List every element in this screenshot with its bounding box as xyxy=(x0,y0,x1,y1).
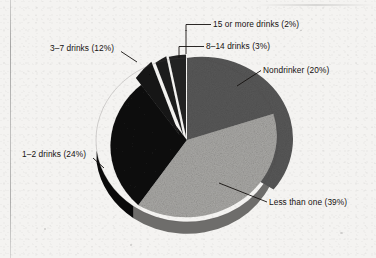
slice-label-8-14-drinks: 8–14 drinks (3%) xyxy=(206,42,270,50)
slice-label-15-or-more-drinks: 15 or more drinks (2%) xyxy=(213,20,299,28)
scanned-page: 15 or more drinks (2%) 8–14 drinks (3%) … xyxy=(0,0,376,258)
slice-label-less-than-one: Less than one (39%) xyxy=(269,198,347,206)
leader-line-3-7-drinks xyxy=(121,52,137,63)
slice-label-3-7-drinks: 3–7 drinks (12%) xyxy=(50,44,114,52)
slice-label-nondrinker: Nondrinker (20%) xyxy=(263,66,329,74)
pie-chart: 15 or more drinks (2%) 8–14 drinks (3%) … xyxy=(0,0,376,258)
slice-label-1-2-drinks: 1–2 drinks (24%) xyxy=(22,150,86,158)
pie-chart-svg xyxy=(0,0,376,258)
